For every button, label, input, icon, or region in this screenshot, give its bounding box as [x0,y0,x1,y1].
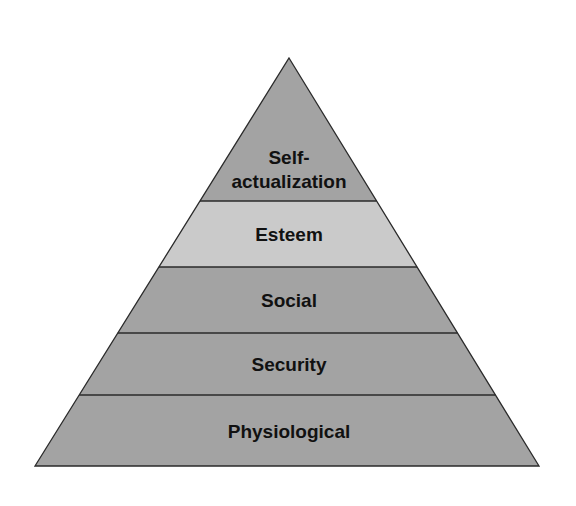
level-label: Physiological [228,421,350,442]
level-label: Self- [268,147,309,168]
level-label: actualization [231,171,346,192]
level-label: Social [261,290,317,311]
level-label: Security [252,354,327,375]
level-label: Esteem [255,224,323,245]
pyramid-diagram: Self-actualizationEsteemSocialSecurityPh… [0,0,576,506]
